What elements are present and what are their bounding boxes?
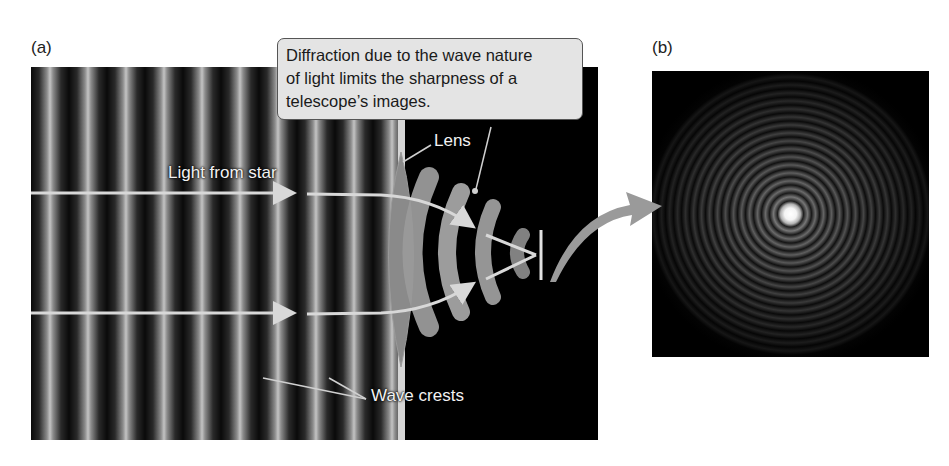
wave-crests-label: Wave crests <box>371 386 464 406</box>
leader-dot <box>472 188 478 194</box>
diffraction-callout: Diffraction due to the wave nature of li… <box>277 38 583 120</box>
callout-line-1: Diffraction due to the wave nature <box>286 44 574 67</box>
leader-lines <box>263 127 491 399</box>
callout-line-3: telescope’s images. <box>286 90 574 113</box>
panel-a-label: (a) <box>31 38 52 58</box>
lens-and-rays-overlay <box>31 67 598 440</box>
lens-label: Lens <box>434 131 471 151</box>
panel-a-diffraction-diagram: Light from star Lens Wave crests <box>31 67 598 440</box>
panel-b-label: (b) <box>652 38 673 58</box>
light-from-star-label: Light from star <box>168 163 277 183</box>
callout-line-2: of light limits the sharpness of a <box>286 67 574 90</box>
panel-b-airy-pattern <box>652 71 929 357</box>
